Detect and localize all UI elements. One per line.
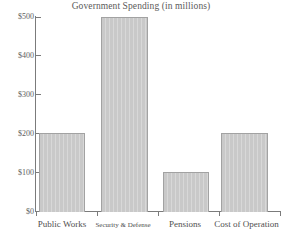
y-axis-tick-label-0: $0 [2, 207, 34, 216]
y-axis-line [35, 16, 36, 212]
y-axis-tick-mark-500 [36, 17, 41, 18]
x-axis-tick-mark-3 [219, 212, 220, 216]
x-axis-tick-mark-2 [158, 212, 159, 216]
bar-cost-of-operation [221, 133, 268, 212]
bar-pensions [163, 172, 209, 212]
x-axis-tick-mark-0 [36, 212, 37, 216]
y-axis-tick-mark-400 [36, 55, 41, 56]
x-axis-label-pensions: Pensions [156, 219, 214, 229]
y-axis-tick-label-500: $500 [2, 12, 34, 21]
y-axis-tick-label-100: $100 [2, 168, 34, 177]
x-axis-label-public-works: Public Works [32, 219, 92, 229]
x-axis-tick-mark-4 [280, 212, 281, 216]
y-axis-tick-mark-300 [36, 94, 41, 95]
y-axis-tick-label-400: $400 [2, 51, 34, 60]
x-axis-label-security-and-defense: Security & Defense [92, 221, 154, 229]
x-axis-tick-mark-1 [97, 212, 98, 216]
bar-public-works [39, 133, 85, 212]
chart-title: Government Spending (in millions) [0, 1, 282, 11]
bar-security-and-defense [101, 17, 148, 212]
bar-chart-figure: Government Spending (in millions) $0 $10… [0, 0, 282, 238]
x-axis-label-cost-of-operation: Cost of Operation [211, 219, 282, 229]
y-axis-tick-label-200: $200 [2, 129, 34, 138]
y-axis-tick-label-300: $300 [2, 90, 34, 99]
